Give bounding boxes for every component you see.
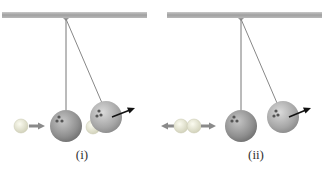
pendulum-diagram-ii [160,0,323,169]
arrow-right-gray [29,123,45,130]
panel-label-ii: (ii) [236,147,276,163]
string-swung [241,19,277,103]
small-ball-right [187,119,201,133]
panel-ii: (ii) [160,0,323,169]
large-ball-rest [50,110,82,142]
support-bar [2,12,147,18]
string-swung [66,19,102,103]
arrow-left-gray [161,123,174,130]
panel-label-i: (i) [62,147,102,163]
panel-i: (i) [0,0,160,169]
small-ball-incoming [14,119,28,133]
pendulum-diagram-i [0,0,160,169]
support-bar [167,12,322,18]
large-ball-rest [225,110,257,142]
arrow-right-gray [201,123,216,130]
large-ball-swung [267,101,299,133]
large-ball-swung [90,101,122,133]
small-ball-left [174,119,188,133]
